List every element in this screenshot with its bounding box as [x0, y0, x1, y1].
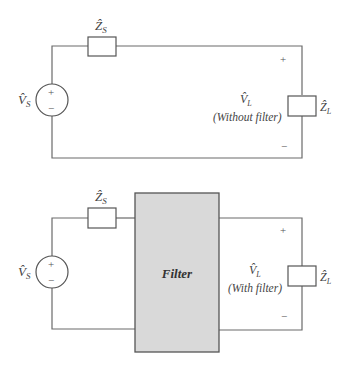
source-impedance-label: ẐS	[95, 18, 107, 35]
source-voltage-label: V̂S	[18, 92, 31, 109]
bottom-wire-filter-to-load-top	[219, 218, 302, 266]
load-impedance-label: ẐL	[320, 270, 332, 286]
filter-label: Filter	[161, 266, 193, 281]
circuit-diagram: + − V̂S ẐS ẐL + − V̂L (Without filter) +…	[0, 0, 347, 370]
load-plus-sign: +	[280, 224, 286, 236]
load-caption: (Without filter)	[213, 111, 282, 124]
source-minus-sign: −	[48, 102, 54, 114]
load-plus-sign: +	[280, 53, 286, 65]
load-impedance-label: ẐL	[320, 100, 332, 116]
load-minus-sign: −	[281, 310, 287, 322]
load-impedance-resistor-icon	[288, 266, 316, 286]
top-wire-top	[116, 46, 302, 95]
source-plus-sign: +	[48, 86, 54, 98]
source-impedance-resistor-icon	[88, 208, 116, 228]
top-wire-left-upper	[52, 46, 88, 84]
top-circuit: + − V̂S ẐS ẐL + − V̂L (Without filter)	[18, 18, 332, 158]
load-voltage-label: V̂L	[240, 92, 252, 108]
load-voltage-label: V̂L	[249, 263, 261, 279]
source-minus-sign: −	[48, 274, 54, 286]
bottom-wire-left-upper	[52, 218, 88, 256]
source-voltage-label: V̂S	[18, 264, 31, 281]
load-impedance-resistor-icon	[288, 96, 316, 116]
load-minus-sign: −	[281, 140, 287, 152]
source-impedance-resistor-icon	[88, 37, 116, 56]
source-impedance-label: ẐS	[95, 189, 107, 206]
bottom-circuit: + − V̂S ẐS Filter ẐL + − V̂L (With filte…	[18, 189, 332, 352]
bottom-wire-left-lower	[52, 288, 135, 329]
source-plus-sign: +	[48, 258, 54, 270]
load-caption: (With filter)	[228, 282, 282, 295]
